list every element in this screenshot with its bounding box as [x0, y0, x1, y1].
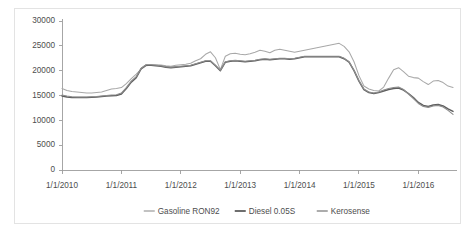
- x-axis-tick-label: 1/1/2010: [46, 181, 78, 190]
- y-axis-tick-label: 30000: [32, 16, 55, 25]
- y-axis-tick-label: 5000: [37, 140, 56, 149]
- x-axis-tick-marks: [62, 170, 418, 174]
- series-line-kerosense: [62, 56, 453, 114]
- line-chart: 050001000015000200002500030000 1/1/20101…: [15, 9, 462, 225]
- x-axis-tick-label: 1/1/2016: [402, 181, 434, 190]
- y-axis-tick-labels: 050001000015000200002500030000: [32, 16, 55, 174]
- series-line-diesel-0-05s: [62, 57, 453, 112]
- series-lines: [62, 43, 453, 114]
- y-axis-tick-label: 10000: [32, 116, 55, 125]
- x-axis-tick-label: 1/1/2012: [165, 181, 197, 190]
- chart-container: 050001000015000200002500030000 1/1/20101…: [0, 0, 476, 239]
- x-axis-tick-label: 1/1/2011: [106, 181, 138, 190]
- chart-legend: Gasoline RON92Diesel 0.05SKerosense: [144, 207, 371, 216]
- chart-frame: 050001000015000200002500030000 1/1/20101…: [14, 8, 461, 224]
- series-line-gasoline-ron92: [62, 43, 453, 93]
- legend-label-1: Gasoline RON92: [158, 207, 220, 216]
- x-axis-tick-label: 1/1/2015: [343, 181, 375, 190]
- x-axis-tick-label: 1/1/2014: [284, 181, 316, 190]
- y-axis-tick-label: 20000: [32, 66, 55, 75]
- x-axis-tick-label: 1/1/2013: [224, 181, 256, 190]
- legend-label-3: Kerosense: [331, 207, 371, 216]
- x-axis-tick-labels: 1/1/20101/1/20111/1/20121/1/20131/1/2014…: [46, 181, 435, 190]
- legend-label-2: Diesel 0.05S: [249, 207, 296, 216]
- y-axis-tick-label: 0: [50, 165, 55, 174]
- y-axis-tick-label: 15000: [32, 91, 55, 100]
- y-axis-tick-label: 25000: [32, 41, 55, 50]
